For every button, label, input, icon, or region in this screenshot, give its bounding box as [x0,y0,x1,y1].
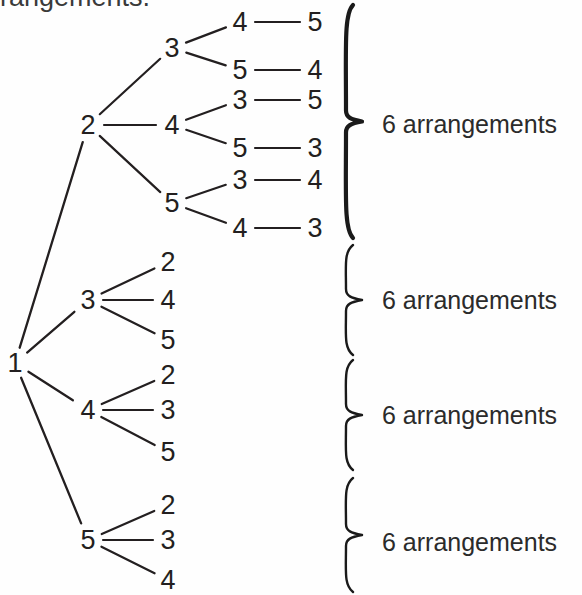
tree-node-level3-2-value-3: 3 [232,87,247,114]
tree-diagram-figure: rrangements. 123453452452352344535345453… [0,0,582,595]
tree-node-level4-0-value-5: 5 [307,9,322,36]
tree-node-level4-2-value-5: 5 [307,87,322,114]
tree-node-level2-1-value-4: 4 [164,112,179,139]
tree-node-level1-2-value-4: 4 [80,397,95,424]
edge-3-to-5 [101,307,154,334]
curly-brace-3 [346,360,362,470]
tree-node-level2-2-value-5: 5 [164,190,179,217]
tree-node-level3-4-value-3: 3 [232,167,247,194]
edge-4-to-2 [102,381,155,404]
edge-2-to-3 [100,59,160,114]
edge-root-to-4 [28,372,72,401]
curly-brace-2 [346,245,362,355]
tree-node-level2-5-value-5: 5 [160,327,175,354]
edge-2-to-5 [100,136,161,192]
tree-node-level3-3-value-5: 5 [232,135,247,162]
tree-node-level3-1-value-5: 5 [232,57,247,84]
tree-node-level2-8-value-5: 5 [160,439,175,466]
brace-label-4: 6 arrangements [382,530,557,555]
tree-node-level2-4-value-4: 4 [160,287,175,314]
edge-5-to-4-l3 [186,208,226,223]
edge-3-to-4-l3 [186,27,226,42]
edge-root-to-3 [27,312,74,353]
curly-brace-4 [346,478,362,592]
edge-5-to-2 [102,511,155,534]
tree-node-level4-1-value-4: 4 [307,57,322,84]
edge-4-to-5-l3 [186,130,226,143]
curly-brace-1 [346,5,362,238]
tree-node-level4-5-value-3: 3 [307,215,322,242]
tree-node-level4-3-value-3: 3 [307,135,322,162]
tree-node-level1-3-value-5: 5 [80,527,95,554]
tree-node-level1-1-value-3: 3 [80,287,95,314]
tree-node-level3-0-value-4: 4 [232,9,247,36]
edge-3-to-5-l3 [186,53,225,66]
edge-4-to-5 [101,417,154,445]
tree-node-level3-5-value-4: 4 [232,215,247,242]
edge-5-to-3-l3 [186,185,226,198]
tree-node-root-0-value-1: 1 [7,350,22,377]
edge-root-to-2 [20,142,83,347]
tree-node-level2-6-value-2: 2 [160,362,175,389]
tree-node-level2-7-value-3: 3 [160,397,175,424]
tree-node-level1-0-value-2: 2 [80,112,95,139]
edge-3-to-2 [102,268,155,293]
brace-label-2: 6 arrangements [382,288,557,313]
brace-label-1: 6 arrangements [382,112,557,137]
tree-node-level2-3-value-2: 2 [160,249,175,276]
tree-node-level2-0-value-3: 3 [164,35,179,62]
edge-5-to-4 [101,547,154,574]
tree-node-level2-9-value-2: 2 [160,492,175,519]
edge-4-to-3-l3 [186,105,226,120]
tree-node-level2-11-value-4: 4 [160,567,175,594]
tree-node-level4-4-value-4: 4 [307,167,322,194]
tree-node-level2-10-value-3: 3 [160,527,175,554]
brace-label-3: 6 arrangements [382,403,557,428]
